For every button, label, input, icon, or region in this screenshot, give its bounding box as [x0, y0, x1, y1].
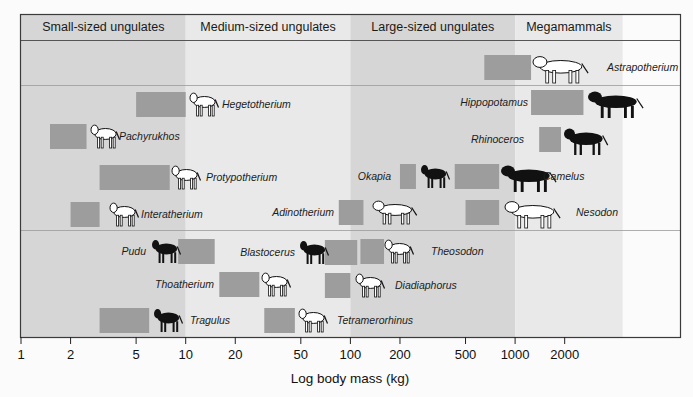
x-tick-label: 2: [67, 347, 74, 362]
taxon-label: Camelus: [543, 170, 585, 182]
x-tick-label: 5: [133, 347, 140, 362]
range-box-theosodon: [360, 239, 384, 264]
taxon-label: Hegetotherium: [222, 98, 291, 110]
range-box-okapia: [400, 164, 416, 189]
taxon-label: Blastocerus: [240, 246, 296, 258]
size-class-headers: Small-sized ungulatesMedium-sized ungula…: [42, 20, 611, 34]
x-axis-title: Log body mass (kg): [291, 371, 410, 386]
taxon-label: Tetramerorhinus: [337, 314, 414, 326]
taxon-label: Protypotherium: [206, 171, 277, 183]
size-class-header: Small-sized ungulates: [42, 20, 164, 34]
taxon-label: Hippopotamus: [460, 96, 528, 108]
body-mass-range-chart: Small-sized ungulatesMedium-sized ungula…: [0, 0, 693, 397]
range-box-interatherium: [71, 202, 100, 227]
size-class-header: Megamammals: [526, 20, 611, 34]
taxon-label: Okapia: [358, 170, 391, 182]
x-tick-label: 1: [17, 347, 24, 362]
x-tick-label: 1000: [501, 347, 530, 362]
x-tick-label: 200: [389, 347, 411, 362]
taxon-label: Rhinoceros: [471, 133, 525, 145]
range-box-camelus: [455, 164, 499, 189]
range-box-nesodon: [466, 200, 500, 225]
size-class-header: Large-sized ungulates: [371, 20, 494, 34]
taxon-label: Nesodon: [576, 206, 618, 218]
range-box-blastocerus: [325, 240, 357, 265]
x-tick-label: 20: [228, 347, 242, 362]
range-box-adinotherium: [339, 200, 364, 225]
taxon-label: Interatherium: [141, 208, 203, 220]
taxon-label: Astrapotherium: [606, 61, 678, 73]
range-box-astrapotherium: [484, 55, 531, 80]
range-box-rhinoceros: [539, 127, 561, 152]
range-box-pudu: [178, 239, 215, 264]
range-box-hegetotherium: [136, 92, 186, 117]
range-box-diadiaphorus: [325, 273, 351, 298]
range-box-tetramerorhinus: [264, 308, 295, 333]
range-box-thoatherium: [219, 272, 259, 297]
taxon-label: Tragulus: [190, 314, 231, 326]
range-box-tragulus: [100, 308, 150, 333]
taxon-label: Thoatherium: [155, 278, 214, 290]
range-box-hippopotamus: [531, 90, 583, 115]
x-axis: 12510205010020050010002000: [17, 337, 579, 362]
x-tick-label: 500: [455, 347, 477, 362]
taxon-label: Theosodon: [431, 245, 484, 257]
range-box-protypotherium: [100, 165, 170, 190]
taxon-label: Adinotherium: [271, 206, 334, 218]
taxon-label: Pachyrukhos: [119, 130, 180, 142]
range-box-pachyrukhos: [50, 124, 87, 149]
x-tick-label: 50: [294, 347, 308, 362]
size-class-header: Medium-sized ungulates: [200, 20, 336, 34]
x-tick-label: 10: [178, 347, 192, 362]
x-tick-label: 100: [340, 347, 362, 362]
x-tick-label: 2000: [550, 347, 579, 362]
taxon-label: Diadiaphorus: [395, 279, 458, 291]
taxon-label: Pudu: [121, 245, 146, 257]
